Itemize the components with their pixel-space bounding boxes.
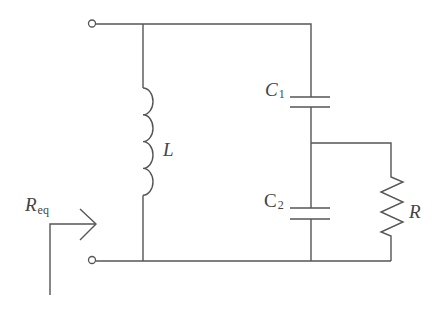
inductor-label: L <box>162 139 174 160</box>
resistor-label: R <box>408 201 421 222</box>
bottom-terminal <box>89 257 96 264</box>
capacitor-c1 <box>290 97 330 208</box>
c2-label: C2 <box>264 190 284 212</box>
resistor-junction-wire <box>311 143 391 163</box>
inductor <box>143 24 153 261</box>
req-arrow-icon <box>50 209 96 295</box>
circuit-diagram: L C1 C2 R Req <box>0 0 447 310</box>
req-label: Req <box>24 194 49 217</box>
capacitor-c2 <box>290 208 330 261</box>
c1-label: C1 <box>265 79 285 101</box>
resistor <box>381 163 403 261</box>
top-terminal <box>89 20 96 27</box>
